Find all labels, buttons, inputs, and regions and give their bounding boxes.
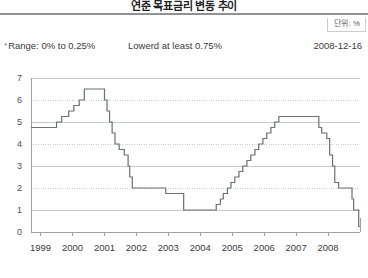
y-axis-label: 6: [17, 95, 22, 105]
page-title: 연준 목표금리 변동 추이: [0, 0, 368, 12]
y-axis-label: 3: [17, 161, 22, 171]
data-series-0: [31, 89, 360, 227]
x-axis-label: 2006: [254, 242, 275, 253]
info-range: *Range: 0% to 0.25%: [4, 40, 95, 51]
y-axis-label: 4: [17, 139, 22, 149]
y-axis-label: 0: [17, 227, 22, 237]
x-axis-label: 2005: [222, 242, 243, 253]
x-axis-label: 2004: [190, 242, 211, 253]
info-middle-text: Lowerd at least 0.75%: [128, 40, 222, 51]
x-axis-label: 2000: [62, 242, 83, 253]
title-divider: [0, 13, 368, 15]
unit-label: 단위: %: [327, 18, 366, 32]
y-axis-label: 7: [17, 73, 22, 83]
chart-page: 연준 목표금리 변동 추이 단위: % *Range: 0% to 0.25% …: [0, 0, 368, 278]
x-axis-label: 2001: [94, 242, 115, 253]
x-axis-label: 1999: [30, 242, 51, 253]
y-axis-label: 2: [17, 183, 22, 193]
info-date-text: 2008-12-16: [313, 40, 362, 51]
y-axis-label: 1: [17, 205, 22, 215]
x-axis-label: 2003: [158, 242, 179, 253]
x-axis-label: 2008: [317, 242, 338, 253]
bullet-icon: *: [4, 41, 7, 50]
x-axis-label: 2002: [126, 242, 147, 253]
info-row: *Range: 0% to 0.25% Lowerd at least 0.75…: [0, 40, 368, 56]
info-range-text: Range: 0% to 0.25%: [8, 40, 95, 51]
y-axis-label: 5: [17, 117, 22, 127]
x-axis-label: 2007: [286, 242, 307, 253]
